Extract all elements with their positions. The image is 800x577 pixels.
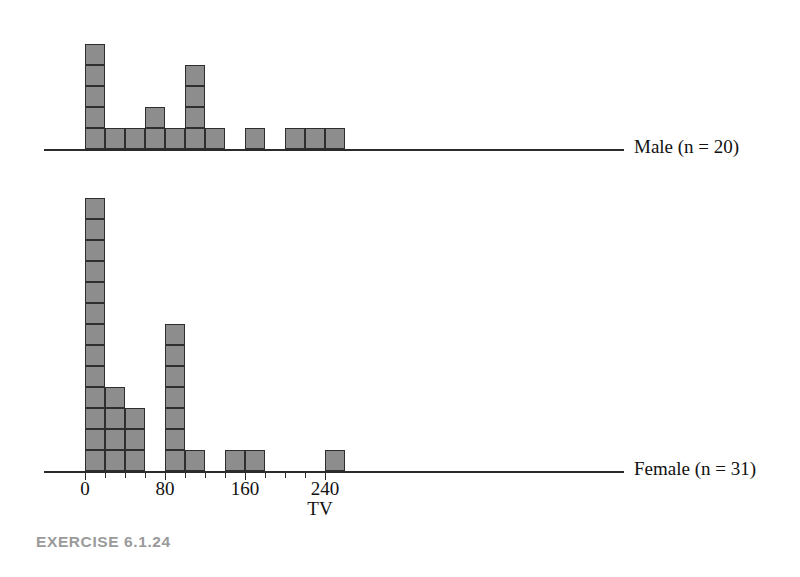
series-label-male: Male (n = 20): [634, 136, 739, 158]
dotplot-cell: [325, 450, 345, 471]
dotplot-cell: [185, 86, 205, 107]
dotplot-cell: [125, 408, 145, 429]
dotplot-cell: [225, 450, 245, 471]
dotplot-cell: [105, 128, 125, 149]
x-axis-tick: [145, 473, 146, 478]
x-axis-tick-label: 160: [231, 478, 260, 500]
dotplot-cell: [85, 86, 105, 107]
x-axis-tick-label: 80: [156, 478, 175, 500]
dotplot-cell: [125, 128, 145, 149]
dotplot-cell: [85, 240, 105, 261]
dotplot-cell: [85, 345, 105, 366]
x-axis-tick: [205, 473, 206, 478]
dotplot-cell: [245, 450, 265, 471]
x-axis-tick: [285, 473, 286, 478]
female-axis-line: [44, 471, 624, 473]
dotplot-cell: [165, 387, 185, 408]
dotplot-cell: [165, 345, 185, 366]
dotplot-cell: [145, 107, 165, 128]
dotplot-cell: [165, 429, 185, 450]
dotplot-cell: [85, 408, 105, 429]
dotplot-cell: [85, 198, 105, 219]
dotplot-cell: [85, 366, 105, 387]
dotplot-cell: [125, 450, 145, 471]
dotplot-cell: [85, 429, 105, 450]
dotplot-cell: [85, 282, 105, 303]
female-dotplot-panel: [0, 160, 800, 480]
dotplot-cell: [85, 387, 105, 408]
dotplot-cell: [125, 429, 145, 450]
dotplot-cell: [245, 128, 265, 149]
dotplot-cell: [85, 65, 105, 86]
x-axis-tick: [305, 473, 306, 478]
dotplot-cell: [165, 450, 185, 471]
dotplot-cell: [325, 128, 345, 149]
dotplot-cell: [185, 65, 205, 86]
dotplot-cell: [285, 128, 305, 149]
dotplot-cell: [105, 408, 125, 429]
dotplot-cell: [205, 128, 225, 149]
figure-caption: EXERCISE 6.1.24: [36, 533, 171, 551]
series-label-female: Female (n = 31): [634, 458, 756, 480]
dotplot-cell: [185, 450, 205, 471]
exercise-figure: 080160240 Male (n = 20) Female (n = 31) …: [0, 0, 800, 577]
dotplot-cell: [165, 366, 185, 387]
dotplot-cell: [85, 303, 105, 324]
dotplot-cell: [145, 128, 165, 149]
dotplot-cell: [85, 261, 105, 282]
dotplot-cell: [165, 128, 185, 149]
dotplot-cell: [105, 450, 125, 471]
x-axis-tick-label: 0: [80, 478, 90, 500]
dotplot-cell: [85, 324, 105, 345]
male-axis-line: [44, 149, 624, 151]
dotplot-cell: [305, 128, 325, 149]
dotplot-cell: [165, 324, 185, 345]
dotplot-cell: [165, 408, 185, 429]
dotplot-cell: [185, 128, 205, 149]
x-axis-tick: [185, 473, 186, 478]
dotplot-cell: [185, 107, 205, 128]
dotplot-cell: [105, 387, 125, 408]
x-axis-tick-label: 240: [311, 478, 340, 500]
x-axis-tick: [105, 473, 106, 478]
dotplot-cell: [85, 128, 105, 149]
x-axis-tick: [125, 473, 126, 478]
dotplot-cell: [85, 450, 105, 471]
x-axis-title: TV: [0, 498, 640, 520]
x-axis-tick: [225, 473, 226, 478]
dotplot-cell: [85, 219, 105, 240]
x-axis-tick: [265, 473, 266, 478]
dotplot-cell: [105, 429, 125, 450]
dotplot-cell: [85, 44, 105, 65]
dotplot-cell: [85, 107, 105, 128]
